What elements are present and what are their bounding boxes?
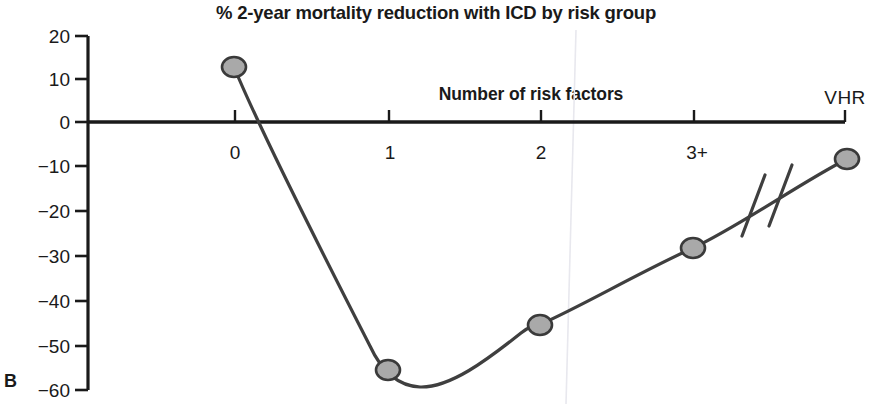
data-point-0 — [222, 57, 246, 77]
x-axis-ticks — [235, 110, 845, 122]
scan-artifact-line — [566, 30, 576, 404]
data-markers — [222, 57, 859, 380]
data-point-2 — [528, 315, 552, 335]
figure-panel-b: % 2-year mortality reduction with ICD by… — [0, 0, 872, 404]
data-point-vhr — [835, 149, 859, 169]
data-point-3plus — [681, 238, 705, 258]
data-point-1 — [376, 360, 400, 380]
axis-break-marks — [742, 165, 792, 236]
y-axis-ticks — [75, 36, 88, 390]
plot-area — [0, 0, 872, 404]
